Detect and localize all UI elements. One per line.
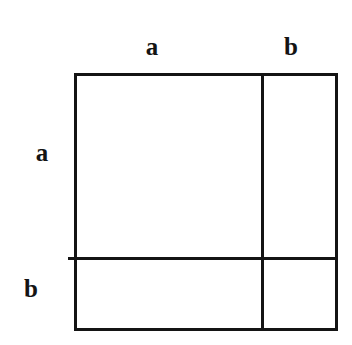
left-segment-label-b: b — [5, 276, 57, 301]
left-segment-label-a: a — [16, 140, 68, 165]
top-segment-label-b: b — [250, 34, 332, 59]
